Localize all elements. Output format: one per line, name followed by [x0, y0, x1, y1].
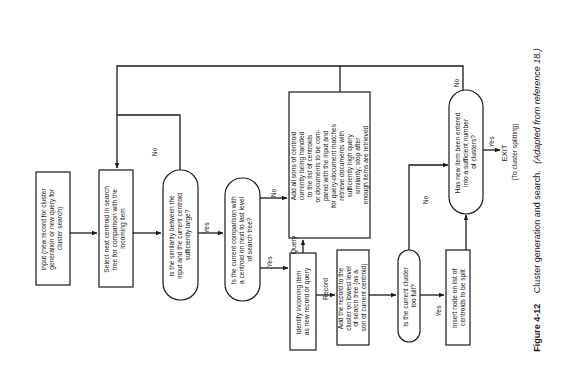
label-last-level-yes: Yes [266, 256, 273, 268]
label-query: Query [290, 235, 298, 254]
node-add-record: Add the record to the cluster on lowest … [337, 250, 369, 345]
label-record: Record [322, 278, 329, 300]
figure-caption: Figure 4-12 Cluster generation and searc… [532, 48, 542, 352]
svg-text:Insert node on list of c: Insert node on list of centroids to be s… [451, 267, 467, 328]
connectors [70, 66, 500, 295]
node-input: Input (new record for cluster generation… [36, 172, 70, 285]
svg-text:Identify incoming item a: Identify incoming item as new record or … [295, 267, 311, 335]
label-last-level-no: No [270, 188, 277, 197]
decision-similarity: Is the similarity between the input and … [163, 170, 198, 300]
figure-number: Figure 4-12 [532, 304, 542, 352]
similarity-no-line [117, 115, 180, 170]
terminal-exit: EXIT (To cluster splitting) [500, 124, 519, 181]
decision-too-full: Is the current cluster too full? [398, 250, 420, 342]
label-sufficient-yes: Yes [488, 136, 495, 148]
label-too-full-yes: Yes [435, 305, 442, 317]
label-similarity-no: No [151, 147, 158, 156]
node-select-centroid: Select next centroid in search tree for … [99, 170, 133, 287]
caption-note: (Adapted from reference 18.) [532, 48, 542, 164]
flowchart-svg: Input (new record for cluster generation… [0, 0, 564, 370]
svg-text:Figure 4-12 Cluster gene: Figure 4-12 Cluster generation and searc… [532, 48, 542, 352]
decision-last-level: Is the current comparison with a centroi… [225, 178, 260, 301]
decision-sufficient-clusters: Has new item been entered into a suffici… [449, 90, 483, 214]
svg-text:EXIT (To cluster splitti: EXIT (To cluster splitting) [500, 124, 519, 181]
node-insert-split: Insert node on list of centroids to be s… [446, 250, 470, 345]
too-full-no-line [409, 165, 448, 250]
node-identify-item: Identify incoming item as new record or … [290, 253, 316, 350]
node-add-sons: Add all sons of centroid currently being… [289, 92, 370, 238]
caption-text: Cluster generation and search. [532, 170, 542, 293]
label-sufficient-no: No [453, 78, 460, 87]
label-similarity-yes: Yes [203, 222, 210, 234]
label-too-full-no: No [422, 195, 429, 204]
flowchart-figure: Input (new record for cluster generation… [0, 0, 564, 370]
svg-text:Add the record to the cl: Add the record to the cluster on lowest … [337, 264, 368, 332]
